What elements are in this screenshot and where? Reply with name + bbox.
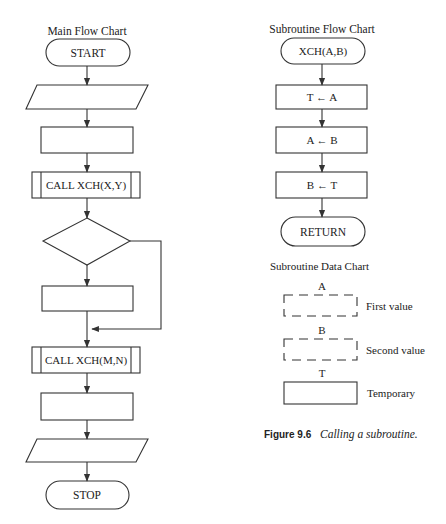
var-t-solid-box bbox=[284, 382, 357, 404]
call-xch-xy-label: CALL XCH(X,Y) bbox=[46, 179, 127, 192]
var-b-name: B bbox=[318, 324, 325, 336]
xch-entry-label: XCH(A,B) bbox=[299, 45, 348, 58]
assign-b-from-t-label: B ← T bbox=[307, 179, 338, 191]
figure-caption-text: Calling a subroutine. bbox=[320, 428, 418, 441]
var-t-name: T bbox=[319, 367, 326, 379]
start-terminator: START bbox=[46, 39, 130, 66]
assign-a-from-b-box: A ← B bbox=[276, 127, 367, 153]
assign-t-from-a-label: T ← A bbox=[307, 91, 337, 103]
assign-b-from-t-box: B ← T bbox=[276, 172, 367, 198]
call-xch-mn-box: CALL XCH(M,N) bbox=[32, 347, 140, 373]
figure-caption: Figure 9.6 Calling a subroutine. bbox=[264, 428, 418, 441]
var-b-dashed-box bbox=[284, 339, 357, 360]
call-xch-xy-box: CALL XCH(X,Y) bbox=[32, 172, 140, 198]
var-t-description: Temporary bbox=[367, 387, 416, 399]
return-terminator: RETURN bbox=[281, 217, 365, 246]
return-label: RETURN bbox=[300, 226, 347, 238]
subroutine-flow-chart: Subroutine Flow Chart XCH(A,B) T ← A A ←… bbox=[269, 23, 375, 246]
process-box bbox=[42, 286, 133, 311]
assign-t-from-a-box: T ← A bbox=[276, 85, 367, 109]
main-flow-chart: Main Flow Chart START CALL XCH(X,Y) bbox=[26, 25, 161, 509]
var-a-description: First value bbox=[366, 300, 413, 312]
call-xch-mn-label: CALL XCH(M,N) bbox=[45, 354, 127, 367]
assign-a-from-b-label: A ← B bbox=[306, 134, 337, 146]
input-parallelogram bbox=[26, 85, 148, 109]
main-chart-title: Main Flow Chart bbox=[47, 25, 127, 37]
var-a-name: A bbox=[318, 280, 326, 292]
decision-diamond bbox=[43, 218, 130, 265]
figure-canvas: Main Flow Chart START CALL XCH(X,Y) bbox=[0, 0, 446, 524]
var-b-description: Second value bbox=[366, 344, 425, 356]
var-a-dashed-box bbox=[284, 295, 357, 316]
process-box bbox=[41, 127, 133, 153]
bypass-branch-arrow bbox=[92, 241, 161, 329]
stop-label: STOP bbox=[73, 489, 101, 501]
start-label: START bbox=[71, 47, 106, 59]
output-parallelogram bbox=[26, 439, 148, 462]
stop-terminator: STOP bbox=[46, 481, 129, 509]
xch-entry-terminator: XCH(A,B) bbox=[281, 38, 365, 64]
process-box bbox=[41, 393, 133, 420]
subroutine-chart-title: Subroutine Flow Chart bbox=[269, 23, 375, 35]
figure-number: Figure 9.6 bbox=[264, 429, 312, 440]
subroutine-data-chart: Subroutine Data Chart A First value B Se… bbox=[270, 260, 425, 404]
data-chart-title: Subroutine Data Chart bbox=[270, 260, 369, 272]
